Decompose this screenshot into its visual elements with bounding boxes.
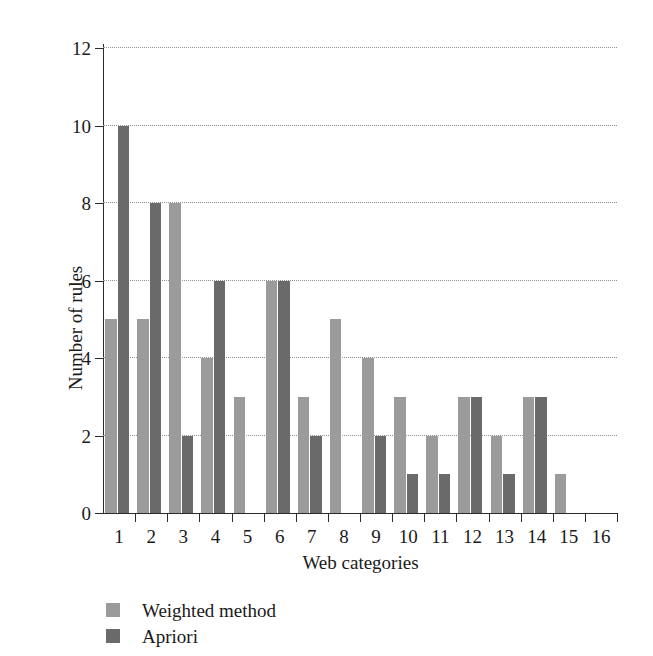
bar	[182, 436, 194, 514]
legend-swatch	[106, 603, 120, 617]
x-tick-label: 11	[431, 527, 449, 546]
x-tick-mark	[264, 513, 265, 522]
bar	[471, 397, 483, 513]
bar-chart-figure: Number of rules 024681012 12345678910111…	[0, 0, 653, 656]
y-tick-label: 8	[82, 194, 92, 213]
plot-area: 024681012 12345678910111213141516	[103, 48, 617, 513]
y-tick-mark	[95, 513, 104, 514]
x-tick-mark	[328, 513, 329, 522]
bar	[278, 281, 290, 514]
x-tick-label: 14	[527, 527, 546, 546]
bar	[234, 397, 246, 513]
x-tick-mark	[585, 513, 586, 522]
gridline	[103, 125, 617, 126]
x-tick-mark	[232, 513, 233, 522]
x-tick-label: 8	[339, 527, 349, 546]
y-tick-label: 6	[82, 271, 92, 290]
x-tick-label: 7	[307, 527, 317, 546]
legend-item: Weighted method	[106, 597, 276, 623]
bar	[118, 126, 130, 514]
bar	[105, 319, 117, 513]
x-tick-mark	[296, 513, 297, 522]
legend-label: Apriori	[142, 627, 198, 646]
x-tick-label: 12	[463, 527, 482, 546]
x-tick-label: 3	[179, 527, 189, 546]
bar	[394, 397, 406, 513]
bar	[266, 281, 278, 514]
x-tick-label: 13	[495, 527, 514, 546]
legend-item: Apriori	[106, 623, 276, 649]
gridline	[103, 47, 617, 48]
x-tick-label: 10	[399, 527, 418, 546]
bar	[298, 397, 310, 513]
bar	[535, 397, 547, 513]
x-tick-mark	[456, 513, 457, 522]
bar	[362, 358, 374, 513]
bar	[439, 474, 451, 513]
y-tick-label: 2	[82, 426, 92, 445]
x-tick-mark	[617, 513, 618, 522]
bar	[523, 397, 535, 513]
bar	[458, 397, 470, 513]
bar	[137, 319, 149, 513]
x-tick-mark	[167, 513, 168, 522]
y-tick-mark	[95, 126, 104, 127]
x-tick-label: 9	[371, 527, 381, 546]
y-tick-mark	[95, 358, 104, 359]
y-tick-label: 12	[72, 39, 91, 58]
bar	[375, 436, 387, 514]
x-tick-label: 16	[591, 527, 610, 546]
x-axis-title: Web categories	[103, 552, 618, 574]
bar	[330, 319, 342, 513]
bar	[407, 474, 419, 513]
x-tick-label: 5	[243, 527, 253, 546]
x-tick-mark	[521, 513, 522, 522]
legend-label: Weighted method	[142, 601, 276, 620]
chart-legend: Weighted methodApriori	[106, 597, 276, 649]
y-tick-label: 10	[72, 116, 91, 135]
bar	[503, 474, 515, 513]
legend-swatch	[106, 629, 120, 643]
bar	[426, 436, 438, 514]
x-tick-label: 1	[114, 527, 124, 546]
x-tick-mark	[424, 513, 425, 522]
x-tick-label: 2	[146, 527, 156, 546]
x-tick-label: 4	[211, 527, 221, 546]
x-tick-label: 6	[275, 527, 285, 546]
y-tick-mark	[95, 48, 104, 49]
y-tick-mark	[95, 436, 104, 437]
x-tick-mark	[392, 513, 393, 522]
y-tick-mark	[95, 281, 104, 282]
bar	[214, 281, 226, 514]
x-tick-mark	[135, 513, 136, 522]
bar	[169, 203, 181, 513]
x-tick-mark	[489, 513, 490, 522]
bar	[491, 436, 503, 514]
y-tick-mark	[95, 203, 104, 204]
y-tick-label: 4	[82, 349, 92, 368]
x-tick-mark	[553, 513, 554, 522]
x-tick-label: 15	[559, 527, 578, 546]
bar	[555, 474, 567, 513]
x-tick-mark	[360, 513, 361, 522]
y-tick-label: 0	[82, 504, 92, 523]
x-tick-mark	[199, 513, 200, 522]
bar	[201, 358, 213, 513]
bar	[150, 203, 162, 513]
bar	[310, 436, 322, 514]
